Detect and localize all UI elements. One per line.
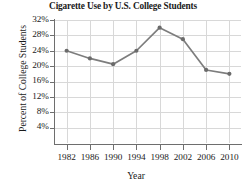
y-axis-tick-label: 4% bbox=[19, 121, 49, 131]
y-axis-tick-labels: 4%8%12%16%20%24%28%32% bbox=[16, 0, 49, 196]
x-axis-label: Year bbox=[30, 170, 242, 181]
x-gridline bbox=[183, 20, 184, 143]
x-axis-tick bbox=[206, 145, 207, 150]
x-axis-tick bbox=[136, 145, 137, 150]
x-axis-tick bbox=[113, 145, 114, 150]
y-axis-tick bbox=[50, 20, 55, 21]
x-axis-tick bbox=[160, 145, 161, 150]
y-gridline bbox=[55, 20, 241, 21]
x-gridline bbox=[67, 20, 68, 143]
y-axis-tick-label: 20% bbox=[19, 60, 49, 70]
y-axis-tick bbox=[50, 112, 55, 113]
y-axis-tick-label: 24% bbox=[19, 45, 49, 55]
y-axis-tick bbox=[50, 82, 55, 83]
y-axis-tick bbox=[50, 97, 55, 98]
y-axis-tick bbox=[50, 128, 55, 129]
x-gridline bbox=[160, 20, 161, 143]
y-axis-tick bbox=[50, 35, 55, 36]
y-gridline bbox=[55, 97, 241, 98]
x-axis-tick bbox=[229, 145, 230, 150]
x-gridline bbox=[206, 20, 207, 143]
x-axis-tick bbox=[90, 145, 91, 150]
chart-figure: Cigarette Use by U.S. College Students P… bbox=[0, 0, 246, 196]
y-axis-tick-label: 16% bbox=[19, 75, 49, 85]
x-axis-tick bbox=[183, 145, 184, 150]
x-gridline bbox=[90, 20, 91, 143]
y-axis-tick-label: 28% bbox=[19, 29, 49, 39]
x-gridline bbox=[229, 20, 230, 143]
x-axis-line bbox=[54, 144, 242, 145]
y-gridline bbox=[55, 128, 241, 129]
y-axis-tick-label: 32% bbox=[19, 14, 49, 24]
y-gridline bbox=[55, 66, 241, 67]
x-axis-tick-label: 2010 bbox=[212, 152, 246, 162]
x-gridline bbox=[113, 20, 114, 143]
y-gridline bbox=[55, 35, 241, 36]
y-axis-tick bbox=[50, 51, 55, 52]
x-axis-tick bbox=[67, 145, 68, 150]
x-gridline bbox=[136, 20, 137, 143]
y-axis-tick-label: 12% bbox=[19, 91, 49, 101]
y-gridline bbox=[55, 51, 241, 52]
y-axis-tick-label: 8% bbox=[19, 106, 49, 116]
y-axis-tick bbox=[50, 66, 55, 67]
plot-area bbox=[55, 20, 241, 143]
y-gridline bbox=[55, 112, 241, 113]
y-gridline bbox=[55, 82, 241, 83]
